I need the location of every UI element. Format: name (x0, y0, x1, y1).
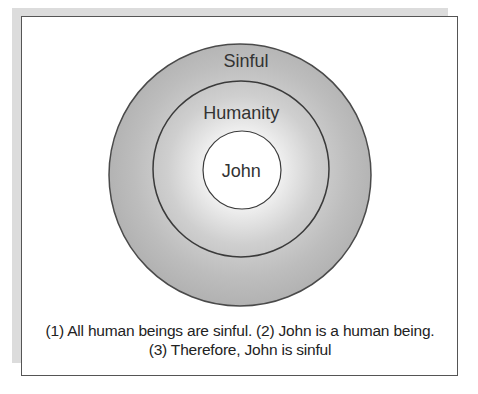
label-humanity: Humanity (203, 102, 280, 124)
caption-conclusion: (3) Therefore, John is sinful (22, 341, 458, 359)
caption-premises: (1) All human beings are sinful. (2) Joh… (22, 322, 458, 340)
label-sinful: Sinful (223, 50, 268, 72)
label-john: John (222, 160, 261, 182)
